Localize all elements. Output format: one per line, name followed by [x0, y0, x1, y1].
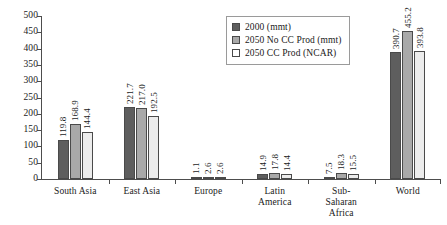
y-tick-label: 100	[8, 142, 38, 152]
bar: 2.6	[215, 177, 226, 179]
x-tick-mark	[175, 180, 176, 184]
y-tick-mark	[37, 65, 41, 66]
y-tick-label: 450	[8, 28, 38, 38]
y-tick-mark	[37, 16, 41, 17]
legend-item: 2050 No CC Prod (mmt)	[232, 34, 342, 46]
bar-value-label: 7.5	[325, 162, 334, 174]
x-tick-mark	[109, 180, 110, 184]
x-tick-mark	[375, 180, 376, 184]
bar: 168.9	[70, 124, 81, 179]
bar-value-label: 217.0	[137, 85, 146, 106]
y-axis-tick-labels: 050100150200250300350400450500	[8, 16, 38, 179]
bar-group: 119.8168.9144.4	[58, 16, 93, 179]
bar: 1.1	[191, 177, 202, 179]
bar-group: 1.12.62.6	[191, 16, 226, 179]
legend-item: 2000 (mmt)	[232, 21, 342, 33]
x-category-label: World	[368, 186, 447, 197]
bar: 393.8	[414, 51, 425, 179]
y-tick-mark	[37, 163, 41, 164]
bar: 18.3	[336, 173, 347, 179]
bar: 2.6	[203, 177, 214, 179]
y-tick-mark	[37, 32, 41, 33]
bar-value-label: 119.8	[59, 117, 68, 137]
bar: 14.9	[257, 174, 268, 179]
y-tick-label: 350	[8, 60, 38, 70]
bar-value-label: 17.8	[270, 154, 279, 170]
bar: 14.4	[281, 174, 292, 179]
bar-value-label: 192.5	[149, 93, 158, 114]
bar-value-label: 14.9	[258, 155, 267, 171]
y-tick-label: 500	[8, 11, 38, 21]
y-tick-label: 150	[8, 125, 38, 135]
bar: 17.8	[269, 173, 280, 179]
bar-group: 390.7455.2393.8	[390, 16, 425, 179]
bar: 119.8	[58, 140, 69, 179]
legend-item-label: 2000 (mmt)	[245, 22, 291, 32]
bar: 455.2	[402, 31, 413, 179]
legend-swatch-icon	[232, 23, 240, 31]
y-tick-label: 0	[8, 174, 38, 184]
y-tick-mark	[37, 98, 41, 99]
bar-value-label: 144.4	[83, 108, 92, 129]
y-tick-label: 400	[8, 44, 38, 54]
grouped-bar-chart: 050100150200250300350400450500 119.8168.…	[0, 0, 447, 225]
bar-value-label: 393.8	[415, 27, 424, 48]
bar-value-label: 390.7	[391, 28, 400, 49]
y-tick-mark	[37, 130, 41, 131]
bar-value-label: 2.6	[216, 162, 225, 174]
bar: 15.5	[348, 174, 359, 179]
bar: 144.4	[82, 132, 93, 179]
bar-group: 221.7217.0192.5	[124, 16, 159, 179]
legend-item: 2050 CC Prod (NCAR)	[232, 47, 342, 59]
y-tick-label: 50	[8, 158, 38, 168]
y-tick-label: 250	[8, 93, 38, 103]
bar: 192.5	[148, 116, 159, 179]
y-tick-mark	[37, 179, 41, 180]
y-tick-mark	[37, 146, 41, 147]
x-tick-mark	[440, 180, 441, 184]
bar-value-label: 15.5	[349, 155, 358, 171]
x-tick-mark	[308, 180, 309, 184]
bar: 221.7	[124, 107, 135, 179]
y-tick-mark	[37, 49, 41, 50]
chart-legend: 2000 (mmt) 2050 No CC Prod (mmt) 2050 CC…	[226, 16, 350, 65]
bar-value-label: 221.7	[125, 83, 134, 104]
y-tick-mark	[37, 81, 41, 82]
bar-value-label: 1.1	[192, 162, 201, 174]
bar-value-label: 18.3	[337, 154, 346, 170]
legend-swatch-icon	[232, 36, 240, 44]
y-tick-label: 200	[8, 109, 38, 119]
legend-item-label: 2050 CC Prod (NCAR)	[245, 48, 336, 58]
bar: 390.7	[390, 52, 401, 179]
bar-value-label: 14.4	[282, 155, 291, 171]
bar: 7.5	[324, 177, 335, 179]
legend-swatch-icon	[232, 49, 240, 57]
bar: 217.0	[136, 108, 147, 179]
bar-value-label: 168.9	[71, 100, 80, 121]
y-tick-mark	[37, 114, 41, 115]
bar-value-label: 455.2	[403, 7, 412, 28]
x-tick-mark	[242, 180, 243, 184]
bar-value-label: 2.6	[204, 162, 213, 174]
y-tick-label: 300	[8, 76, 38, 86]
legend-item-label: 2050 No CC Prod (mmt)	[245, 35, 342, 45]
